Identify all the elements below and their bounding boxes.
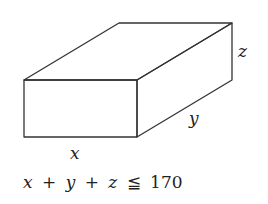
side-face (137, 23, 232, 137)
front-face (24, 80, 137, 137)
top-face (24, 23, 232, 80)
constraint-formula: x + y + z ≦ 170 (23, 172, 183, 192)
box-diagram: z y x x + y + z ≦ 170 (0, 0, 268, 204)
label-z: z (237, 41, 248, 61)
term-x: x (23, 172, 33, 192)
leq-sign: ≦ (127, 172, 141, 192)
label-y: y (188, 108, 199, 128)
term-z: z (107, 172, 118, 192)
label-x: x (70, 143, 80, 163)
term-y: y (65, 172, 76, 192)
limit-value: 170 (150, 172, 182, 192)
plus-2: + (85, 172, 99, 192)
plus-1: + (42, 172, 56, 192)
